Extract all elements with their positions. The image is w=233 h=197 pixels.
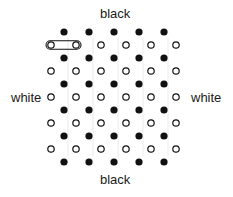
white-dot [148,68,154,74]
black-dot [160,28,167,35]
black-dot [85,132,92,139]
black-dot [60,54,67,61]
black-dot [110,132,117,139]
black-dot [135,132,142,139]
white-dot [98,94,104,100]
white-dot [48,120,54,126]
black-dot [135,28,142,35]
white-dot [123,94,129,100]
white-dot [173,68,179,74]
dot-lattice [0,0,233,197]
white-dot [98,68,104,74]
white-dot [73,68,79,74]
black-dot [85,158,92,165]
black-dot [160,54,167,61]
white-dot [123,120,129,126]
white-dot [73,120,79,126]
white-dot [73,42,79,48]
black-dot [60,132,67,139]
white-dot [173,120,179,126]
black-dot [160,106,167,113]
white-dot [123,68,129,74]
white-dot [148,94,154,100]
black-dot [135,106,142,113]
white-dot [173,42,179,48]
black-dot [60,158,67,165]
black-dot [135,80,142,87]
white-dot [48,94,54,100]
white-dot [173,94,179,100]
black-dot [160,80,167,87]
white-dot [48,68,54,74]
black-dot [110,158,117,165]
white-dot [123,42,129,48]
black-dot [160,158,167,165]
white-dot [123,146,129,152]
white-dot [148,120,154,126]
white-dot [48,146,54,152]
black-dot [85,106,92,113]
black-dot [110,28,117,35]
black-dot [110,106,117,113]
black-dot [60,80,67,87]
black-dot [110,80,117,87]
black-dot [85,80,92,87]
white-dot [48,42,54,48]
white-dot [148,42,154,48]
white-dot [173,146,179,152]
white-dot [98,42,104,48]
black-dot [110,54,117,61]
black-dot [85,28,92,35]
black-dot [60,106,67,113]
white-dot [98,146,104,152]
white-dot [148,146,154,152]
black-dot [85,54,92,61]
black-dot [135,54,142,61]
white-dot [73,94,79,100]
black-dot [160,132,167,139]
black-dot [60,28,67,35]
black-dot [135,158,142,165]
white-dot [73,146,79,152]
white-dot [98,120,104,126]
